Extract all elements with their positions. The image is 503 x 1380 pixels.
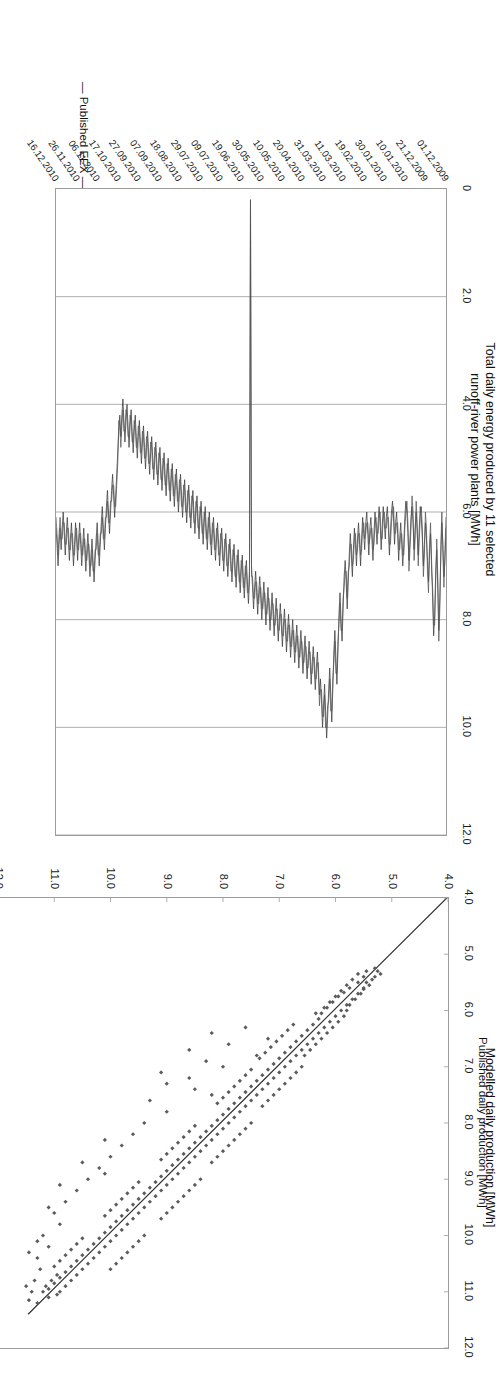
- scatter-x-tick: 6.0: [463, 1002, 475, 1017]
- timeseries-value-tick: 2.0: [461, 288, 473, 303]
- timeseries-value-tick: 10.0: [461, 716, 473, 737]
- scatter-y-tick: 5.0: [387, 874, 399, 889]
- scatter-y-tick: 4.0: [443, 874, 455, 889]
- timeseries-plot-area: [55, 188, 447, 836]
- scatter-y-tick: 12.0: [0, 868, 5, 889]
- scatter-x-tick: 5.0: [463, 946, 475, 961]
- scatter-y-tick: 9.0: [162, 874, 174, 889]
- timeseries-chart: Total daily energy produced by 11 select…: [0, 62, 503, 857]
- scatter-svg: [0, 898, 448, 1348]
- scatter-y-axis-title: Published daily production [MWh]: [477, 1037, 489, 1208]
- timeseries-svg: [56, 189, 446, 835]
- scatter-y-tick: 10.0: [106, 868, 118, 889]
- scatter-x-tick: 4.0: [463, 889, 475, 904]
- scatter-y-tick: 11.0: [49, 868, 61, 889]
- timeseries-value-tick: 12.0: [461, 823, 473, 844]
- scatter-x-tick: 8.0: [463, 1114, 475, 1129]
- scatter-x-tick: 10.0: [463, 1224, 475, 1245]
- scatter-x-tick: 12.0: [463, 1336, 475, 1357]
- figure-page: Total daily energy produced by 11 select…: [0, 0, 503, 1380]
- legend-label-published-eex: Published EEX: [78, 97, 90, 174]
- scatter-x-tick: 7.0: [463, 1058, 475, 1073]
- scatter-chart-body: Modelled daily production [MWh] 4.05.06.…: [0, 855, 503, 1380]
- scatter-y-tick: 6.0: [331, 874, 343, 889]
- scatter-y-tick: 8.0: [218, 874, 230, 889]
- timeseries-value-tick: 6.0: [461, 503, 473, 518]
- timeseries-title: Total daily energy produced by 11 select…: [467, 62, 497, 857]
- scatter-chart: Modelled daily production [MWh] 4.05.06.…: [0, 855, 503, 1380]
- scatter-plot-area: [0, 897, 449, 1349]
- scatter-x-tick: 11.0: [463, 1280, 475, 1301]
- legend-line-marker-eex: —: [78, 82, 90, 94]
- legend-line-marker-hydrosense: —: [78, 177, 90, 189]
- timeseries-value-tick: 4.0: [461, 396, 473, 411]
- timeseries-value-tick: 0: [461, 185, 473, 191]
- timeseries-chart-body: Total daily energy produced by 11 select…: [0, 62, 503, 857]
- scatter-y-tick: 7.0: [274, 874, 286, 889]
- timeseries-value-tick: 8.0: [461, 611, 473, 626]
- scatter-x-tick: 9.0: [463, 1171, 475, 1186]
